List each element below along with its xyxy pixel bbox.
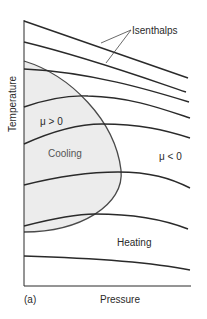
cooling-label: Cooling — [48, 148, 82, 159]
isenthalps-leader-2 — [106, 30, 131, 63]
joule-thomson-diagram: Isenthalps μ > 0 Cooling μ < 0 Heating P… — [0, 0, 207, 319]
panel-label: (a) — [24, 294, 36, 305]
inversion-curve-region — [24, 61, 121, 232]
mu-negative-label: μ < 0 — [159, 151, 182, 162]
isenthalps-label: Isenthalps — [132, 25, 178, 36]
isenthalp-8 — [24, 256, 190, 270]
mu-positive-label: μ > 0 — [40, 116, 63, 127]
heating-label: Heating — [117, 237, 151, 248]
x-axis-label: Pressure — [100, 294, 140, 305]
y-axis-label: Temperature — [7, 75, 18, 132]
